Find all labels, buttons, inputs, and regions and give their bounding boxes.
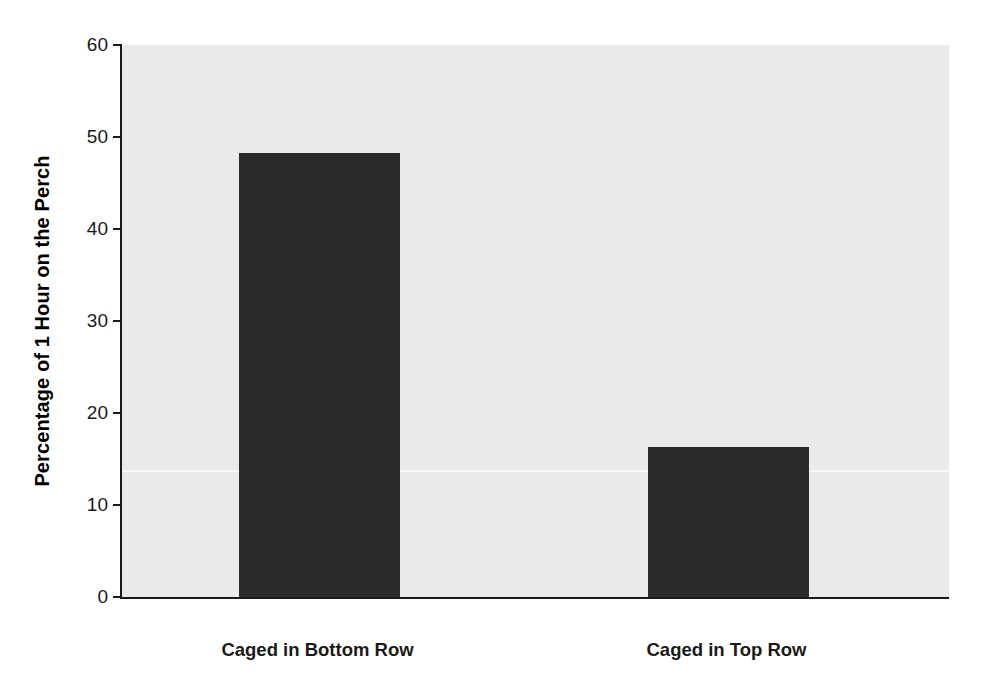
y-tick-label: 30 bbox=[87, 310, 108, 332]
y-tick-label: 50 bbox=[87, 126, 108, 148]
y-tick-mark bbox=[113, 412, 122, 414]
y-axis-title: Percentage of 1 Hour on the Perch bbox=[22, 45, 62, 597]
x-category-label: Caged in Top Row bbox=[647, 639, 807, 661]
bar bbox=[239, 153, 400, 597]
y-tick-mark bbox=[113, 596, 122, 598]
y-tick-label: 60 bbox=[87, 34, 108, 56]
bar-chart-figure: Percentage of 1 Hour on the Perch 010203… bbox=[0, 0, 992, 697]
plot-area: 0102030405060 bbox=[120, 45, 949, 599]
y-tick-mark bbox=[113, 320, 122, 322]
y-tick-mark bbox=[113, 136, 122, 138]
y-tick-label: 40 bbox=[87, 218, 108, 240]
y-tick-label: 0 bbox=[97, 586, 108, 608]
y-tick-mark bbox=[113, 504, 122, 506]
y-tick-label: 20 bbox=[87, 402, 108, 424]
bar bbox=[648, 447, 809, 597]
x-category-label: Caged in Bottom Row bbox=[221, 639, 413, 661]
y-tick-mark bbox=[113, 44, 122, 46]
y-tick-label: 10 bbox=[87, 494, 108, 516]
y-tick-mark bbox=[113, 228, 122, 230]
